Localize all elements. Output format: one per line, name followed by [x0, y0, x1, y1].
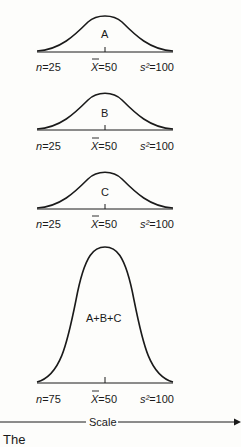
- scale-axis-label: Scale: [89, 416, 117, 428]
- mean-stat-c: X=50: [91, 218, 117, 230]
- panel-label-a: A: [101, 28, 108, 40]
- panel-label-c: C: [101, 186, 109, 198]
- mean-stat-a: X=50: [91, 61, 117, 73]
- panel-label-combined: A+B+C: [86, 312, 121, 324]
- panel-label-b: B: [101, 107, 108, 119]
- mean-stat-combined: X=50: [91, 393, 117, 405]
- caption-fragment: The: [3, 432, 25, 447]
- n-stat-c: n=25: [36, 218, 61, 230]
- mean-stat-b: X=50: [91, 140, 117, 152]
- arrowhead-icon: [234, 419, 241, 426]
- variance-stat-c: s²=100: [140, 218, 174, 230]
- variance-stat-b: s²=100: [140, 140, 174, 152]
- n-stat-b: n=25: [36, 140, 61, 152]
- n-stat-a: n=25: [36, 61, 61, 73]
- n-stat-combined: n=75: [36, 393, 61, 405]
- variance-stat-combined: s²=100: [140, 393, 174, 405]
- variance-stat-a: s²=100: [140, 61, 174, 73]
